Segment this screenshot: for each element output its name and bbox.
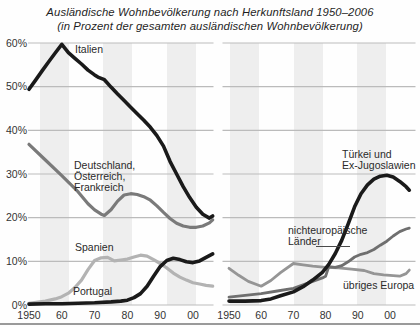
series-label-uebriges-europa: übriges Europa xyxy=(343,280,414,291)
y-axis-label-30: 30% xyxy=(0,168,27,181)
series-label-nichteuropaeische-laender: nichteuropäische Länder xyxy=(288,225,367,247)
series-label-deutschland-oesterreich-frankreich: Deutschland, Österreich, Frankreich xyxy=(74,160,135,194)
y-axis-label-20: 20% xyxy=(0,211,27,224)
series-label-portugal: Portugal xyxy=(73,286,112,297)
x-axis-label-right-1950: 1950 xyxy=(217,309,240,321)
series-label-italien: Italien xyxy=(75,44,103,55)
x-axis-label-right-60: 60 xyxy=(255,309,267,321)
label-leader-line xyxy=(316,246,350,247)
x-axis-label-left-90: 90 xyxy=(154,309,166,321)
x-axis-label-left-00: 00 xyxy=(187,309,199,321)
bottom-rule xyxy=(0,323,420,325)
x-axis-label-right-90: 90 xyxy=(352,309,364,321)
x-axis-label-left-80: 80 xyxy=(122,309,134,321)
y-axis-label-10: 10% xyxy=(0,255,27,268)
y-axis-label-50: 50% xyxy=(0,80,27,93)
x-axis-label-left-70: 70 xyxy=(89,309,101,321)
x-axis-label-right-70: 70 xyxy=(288,309,300,321)
figure: Ausländische Wohnbevölkerung nach Herkun… xyxy=(0,0,420,327)
series-label-tuerkei-ex-jugoslawien: Türkei und Ex-Jugoslawien xyxy=(342,149,416,171)
y-axis-label-60: 60% xyxy=(0,37,27,50)
x-axis-label-left-60: 60 xyxy=(56,309,68,321)
x-axis-label-right-80: 80 xyxy=(320,309,332,321)
y-axis-label-40: 40% xyxy=(0,124,27,137)
x-axis-label-right-00: 00 xyxy=(384,309,396,321)
x-axis-label-left-1950: 1950 xyxy=(17,309,40,321)
series-label-spanien: Spanien xyxy=(75,242,114,253)
